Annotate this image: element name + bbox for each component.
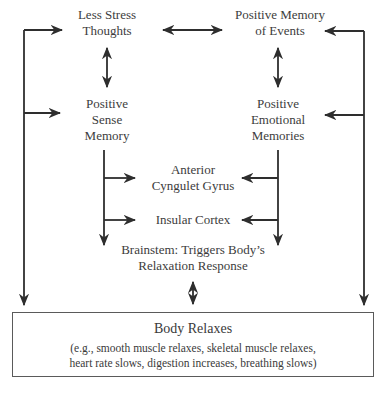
node-label-line: Memory [67, 128, 147, 144]
outcome-detail-line: (e.g., smooth muscle relaxes, skeletal m… [13, 341, 373, 356]
node-label-line: Less Stress [62, 7, 152, 23]
node-label-line: Positive [67, 96, 147, 112]
relaxation-flow-diagram: Less Stress Thoughts Positive Memory of … [0, 0, 387, 395]
node-label-line: Positive Memory [226, 7, 334, 23]
node-label-line: Thoughts [62, 23, 152, 39]
node-label-line: Brainstem: Triggers Body’s [108, 242, 278, 258]
outcome-detail: (e.g., smooth muscle relaxes, skeletal m… [13, 341, 373, 371]
node-label-line: Emotional [236, 112, 320, 128]
node-positive-sense-memory: Positive Sense Memory [67, 96, 147, 144]
node-label-line: Sense [67, 112, 147, 128]
node-label-line: Memories [236, 128, 320, 144]
node-insular-cortex: Insular Cortex [138, 212, 248, 228]
node-label-line: Cyngulet Gyrus [138, 178, 248, 194]
node-brainstem: Brainstem: Triggers Body’s Relaxation Re… [108, 242, 278, 274]
node-label-line: Relaxation Response [108, 258, 278, 274]
node-anterior-cyngulet-gyrus: Anterior Cyngulet Gyrus [138, 162, 248, 194]
node-positive-emotional-memories: Positive Emotional Memories [236, 96, 320, 144]
outcome-detail-line: heart rate slows, digestion increases, b… [13, 356, 373, 371]
node-label-line: of Events [226, 23, 334, 39]
outcome-title: Body Relaxes [13, 320, 373, 338]
outcome-box-body-relaxes: Body Relaxes (e.g., smooth muscle relaxe… [12, 312, 374, 377]
node-positive-memory-of-events: Positive Memory of Events [226, 7, 334, 39]
node-label-line: Positive [236, 96, 320, 112]
node-less-stress-thoughts: Less Stress Thoughts [62, 7, 152, 39]
node-label-line: Insular Cortex [138, 212, 248, 228]
node-label-line: Anterior [138, 162, 248, 178]
